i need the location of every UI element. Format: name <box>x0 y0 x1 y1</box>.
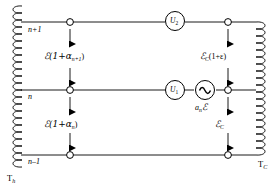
ac-source-label: anℰ <box>195 103 207 113</box>
emf-label-left-lower: ℰ(1+αn) <box>44 120 77 130</box>
emf-label-right-lower: ℰC <box>215 120 224 130</box>
node-top-left <box>67 19 74 26</box>
circuit-diagram-figure: n+1 n n–1 Th TC U2 U1 anℰ ℰ(1+αn+1) ℰ(1+… <box>0 0 280 190</box>
meter-label-u1: U1 <box>170 86 178 95</box>
right-reservoir-coil <box>256 22 265 155</box>
node-label-n: n <box>28 93 32 101</box>
meter-label-u2: U2 <box>170 17 178 26</box>
emf-label-right-upper: ℰC(1+ε) <box>200 52 226 62</box>
node-top-right <box>225 19 232 26</box>
ac-source-symbol[interactable] <box>196 81 215 100</box>
emf-label-left-upper: ℰ(1+αn+1) <box>44 52 84 62</box>
node-label-n-plus-1: n+1 <box>28 26 41 34</box>
node-middle-left <box>67 87 74 94</box>
temperature-label-cold: TC <box>258 160 267 170</box>
node-label-n-minus-1: n–1 <box>28 158 40 166</box>
node-bottom-left <box>67 152 74 159</box>
temperature-label-hot: Th <box>7 174 15 184</box>
rail-lines <box>21 22 256 155</box>
node-middle-right <box>225 87 232 94</box>
left-reservoir-coil <box>13 6 22 167</box>
node-bottom-right <box>225 152 232 159</box>
circuit-schematic-canvas <box>0 0 280 190</box>
